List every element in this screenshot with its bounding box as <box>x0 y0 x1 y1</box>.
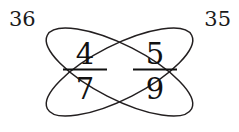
cross-multiplication-figure: 4 7 5 9 36 35 <box>0 0 239 132</box>
ellipse-up-right <box>35 11 204 132</box>
ellipse-group <box>35 11 204 132</box>
fraction-left: 4 7 <box>76 37 94 106</box>
corner-label-right: 35 <box>204 9 231 30</box>
ellipse-down-right <box>35 11 204 132</box>
corner-label-left: 36 <box>9 9 36 30</box>
fraction-right: 5 9 <box>146 37 164 106</box>
denominator-left: 7 <box>76 72 94 106</box>
numerator-left: 4 <box>76 37 94 71</box>
diagram-canvas: 4 7 5 9 <box>0 0 239 132</box>
numerator-right: 5 <box>146 37 164 71</box>
denominator-right: 9 <box>146 72 164 106</box>
